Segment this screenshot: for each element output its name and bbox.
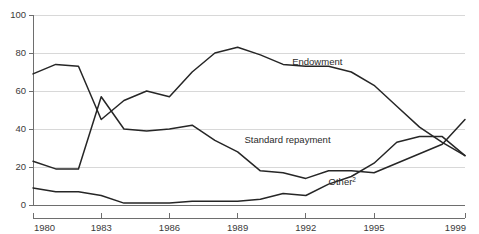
- x-tick-labels-group: 1980198319861989199219951999: [34, 222, 466, 233]
- line-chart: 020406080100 198019831986198919921995199…: [0, 0, 479, 234]
- x-tick-label-1999: 1999: [445, 222, 466, 233]
- x-tick-label-1992: 1992: [295, 222, 316, 233]
- y-tick-label-60: 60: [15, 85, 26, 96]
- chart-container: 020406080100 198019831986198919921995199…: [0, 0, 479, 234]
- series-annotation-other: Other2: [329, 176, 357, 188]
- y-tick-label-20: 20: [15, 161, 26, 172]
- x-tick-label-1989: 1989: [227, 222, 248, 233]
- axes-group: [33, 15, 465, 218]
- x-tickmarks-group: [33, 213, 465, 218]
- x-tick-label-1980: 1980: [34, 222, 55, 233]
- x-tick-label-1983: 1983: [91, 222, 112, 233]
- series-line-other: [33, 137, 465, 204]
- footnote-marker: 2: [352, 176, 356, 183]
- y-tick-label-80: 80: [15, 47, 26, 58]
- series-annotation-standard-repayment: Standard repayment: [244, 134, 330, 145]
- series-lines-group: [33, 47, 465, 203]
- y-tick-label-100: 100: [10, 9, 26, 20]
- x-tick-label-1995: 1995: [363, 222, 384, 233]
- y-tickmarks-group: [29, 15, 33, 205]
- y-tick-labels-group: 020406080100: [10, 9, 26, 210]
- y-tick-label-40: 40: [15, 123, 26, 134]
- x-tick-label-1986: 1986: [159, 222, 180, 233]
- y-tick-label-0: 0: [21, 199, 26, 210]
- series-annotation-endowment: Endowment: [292, 56, 343, 67]
